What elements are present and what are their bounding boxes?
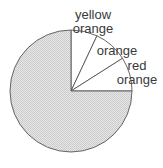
pie-chart: yelloworangeorangeredorange [0,0,163,168]
slice-label-yellow-orange: yelloworange [73,7,113,36]
slice-label-orange: orange [97,43,137,58]
